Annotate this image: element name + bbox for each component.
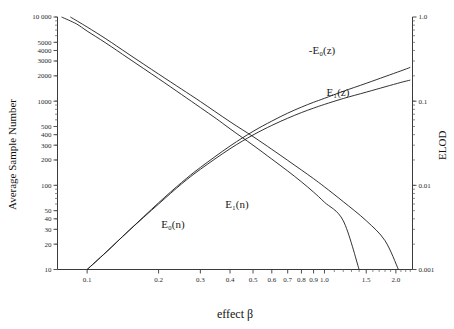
e1-n-label: E₁(n) (225, 198, 249, 211)
left-tick-label: 300 (41, 142, 52, 150)
left-axis-ticks: 1020304050100200300400500100020003000400… (32, 13, 57, 274)
left-tick-label: 3000 (38, 57, 53, 65)
right-tick-label: 0.1 (419, 98, 428, 106)
neg-e0-z-label: -E₀(z) (309, 44, 336, 57)
bottom-tick-label: 0.5 (249, 276, 258, 284)
e1-z-label: E₁(z) (327, 86, 350, 99)
curve--e-0-z- (87, 67, 410, 269)
bottom-tick-label: 0.7 (283, 276, 292, 284)
left-tick-label: 50 (45, 207, 53, 215)
bottom-tick-label: 0.3 (196, 276, 205, 284)
left-tick-label: 200 (41, 156, 52, 164)
right-axis-title: ELOD (436, 131, 448, 160)
left-tick-label: 2000 (38, 72, 53, 80)
curve-annotations: -E₀(z)E₁(z)E₁(n)E₀(n) (161, 44, 349, 231)
right-tick-label: 1.0 (419, 13, 428, 21)
data-curves (62, 17, 411, 270)
bottom-tick-label: 2.0 (392, 276, 401, 284)
chart-figure: 1020304050100200300400500100020003000400… (0, 0, 454, 329)
left-tick-label: 40 (45, 215, 53, 223)
bottom-tick-label: 0.4 (226, 276, 235, 284)
left-tick-label: 500 (41, 123, 52, 131)
e0-n-label: E₀(n) (161, 218, 185, 231)
left-tick-label: 10 000 (32, 13, 52, 21)
bottom-axis-ticks: 0.10.20.30.40.50.60.70.80.91.01.52.0 (83, 270, 401, 284)
bottom-tick-label: 0.6 (267, 276, 276, 284)
bottom-tick-label: 0.9 (309, 276, 318, 284)
left-tick-label: 400 (41, 131, 52, 139)
bottom-axis-title: effect β (217, 307, 253, 321)
left-tick-label: 30 (45, 226, 53, 234)
curve-e-1-z- (87, 80, 410, 269)
axis-frame (58, 17, 413, 270)
bottom-tick-label: 0.8 (297, 276, 306, 284)
left-axis-title: Average Sample Number (6, 99, 18, 210)
bottom-tick-label: 1.5 (362, 276, 371, 284)
right-tick-label: 0.001 (419, 266, 435, 274)
left-tick-label: 1000 (38, 98, 53, 106)
chart-canvas: 1020304050100200300400500100020003000400… (0, 0, 454, 329)
right-axis-ticks: 0.0010.010.11.0 (413, 13, 435, 274)
left-tick-label: 100 (41, 182, 52, 190)
bottom-tick-label: 1.0 (320, 276, 329, 284)
bottom-tick-label: 0.2 (154, 276, 163, 284)
left-tick-label: 20 (45, 241, 53, 249)
left-tick-label: 10 (45, 266, 53, 274)
left-tick-label: 5000 (38, 39, 53, 47)
left-tick-label: 4000 (38, 47, 53, 55)
right-tick-label: 0.01 (419, 182, 432, 190)
bottom-tick-label: 0.1 (83, 276, 92, 284)
